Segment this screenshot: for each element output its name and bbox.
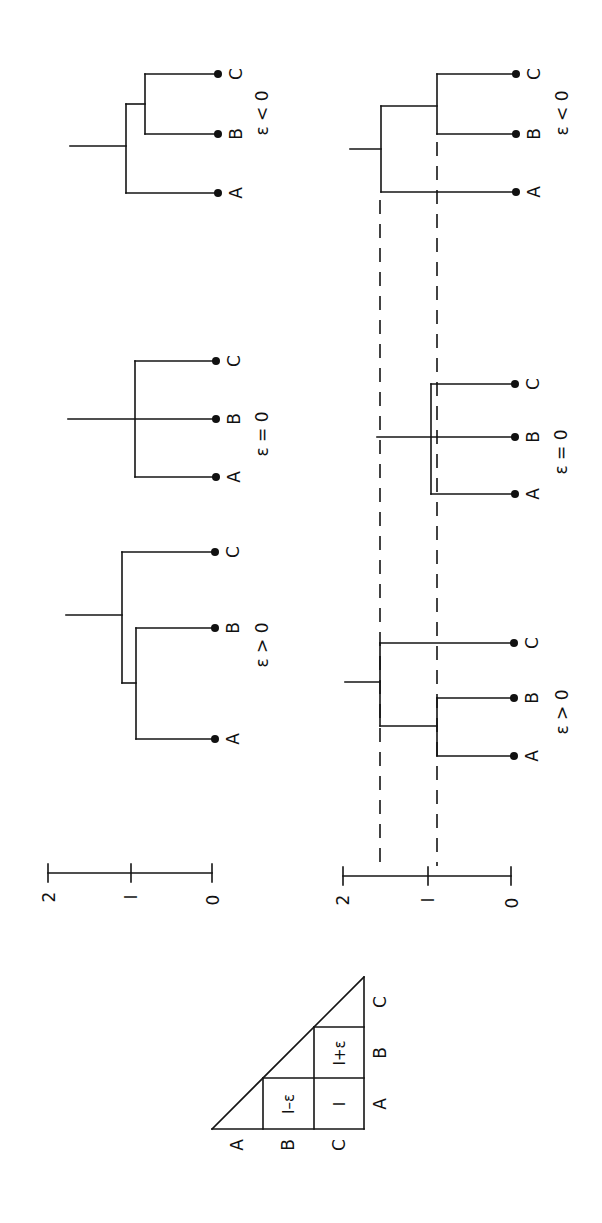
leaf-label-c: C [524, 68, 544, 80]
leaf-label-c: C [523, 378, 543, 390]
cell-bc: I+ε [331, 1040, 349, 1065]
tick-label-2: 2 [39, 892, 59, 903]
leaf-label-c: C [226, 68, 246, 80]
tick-label-2: 2 [333, 895, 353, 906]
leaf-label-b: B [524, 128, 544, 140]
leaf-label-a: A [522, 750, 542, 762]
leaf-label-c: C [224, 355, 244, 367]
row-label-a: A [227, 1139, 247, 1151]
tree-top-eps-negative: A B C ε < 0 [70, 68, 272, 199]
leaf-dot-c [511, 380, 519, 388]
leaf-label-b: B [224, 413, 244, 425]
leaf-dot-a [211, 735, 219, 743]
leaf-dot-b [512, 130, 520, 138]
col-label-a: A [370, 1098, 390, 1110]
condition-label: ε < 0 [252, 90, 272, 135]
leaf-label-a: A [226, 187, 246, 199]
leaf-label-c: C [223, 546, 243, 558]
leaf-label-a: A [523, 488, 543, 500]
leaf-dot-c [510, 639, 518, 647]
tree-bottom-eps-negative: A B C ε < 0 [350, 68, 572, 198]
top-row: A B C ε < 0 A B C ε = 0 [39, 68, 272, 905]
condition-label: ε > 0 [252, 622, 272, 667]
tree-bottom-eps-positive: A B C ε > 0 [345, 637, 572, 762]
tree-top-eps-zero: A B C ε = 0 [68, 355, 272, 483]
row-label-b: B [278, 1139, 298, 1151]
tick-label-1: I [418, 897, 438, 902]
condition-label: ε < 0 [552, 90, 572, 135]
leaf-label-b: B [522, 692, 542, 704]
leaf-label-a: A [224, 471, 244, 483]
leaf-dot-a [511, 490, 519, 498]
col-label-c: C [370, 996, 390, 1008]
leaf-dot-a [214, 189, 222, 197]
leaf-dot-c [211, 548, 219, 556]
row-label-c: C [329, 1139, 349, 1151]
cell-ab: I–ε [280, 1094, 298, 1114]
tick-label-0: 0 [502, 898, 522, 909]
bottom-row: A B C ε < 0 A B C ε = 0 [333, 68, 572, 908]
leaf-dot-b [510, 694, 518, 702]
distance-matrix-triangle: I–ε I I+ε A B C A B C [212, 977, 390, 1151]
dendrogram-figure: A B C ε < 0 A B C ε = 0 [0, 0, 602, 1223]
col-label-b: B [370, 1047, 390, 1059]
leaf-dot-b [211, 624, 219, 632]
leaf-dot-a [510, 752, 518, 760]
condition-label: ε = 0 [551, 429, 571, 474]
condition-label: ε = 0 [252, 411, 272, 456]
condition-label: ε > 0 [552, 689, 572, 734]
leaf-label-b: B [523, 431, 543, 443]
cell-ac: I [331, 1102, 349, 1106]
leaf-label-a: A [223, 733, 243, 745]
scale-bar-bottom: 2 I 0 [333, 867, 522, 908]
leaf-dot-c [512, 70, 520, 78]
leaf-dot-b [214, 130, 222, 138]
leaf-dot-c [214, 70, 222, 78]
leaf-label-a: A [524, 186, 544, 198]
leaf-dot-b [212, 415, 220, 423]
leaf-dot-a [512, 188, 520, 196]
tree-top-eps-positive: A B C ε > 0 [66, 546, 272, 745]
leaf-dot-b [511, 433, 519, 441]
leaf-label-b: B [223, 622, 243, 634]
leaf-dot-c [212, 357, 220, 365]
tick-label-1: I [121, 894, 141, 899]
leaf-label-b: B [226, 128, 246, 140]
tick-label-0: 0 [203, 895, 223, 906]
scale-bar-top: 2 I 0 [39, 864, 223, 905]
tree-bottom-eps-zero: A B C ε = 0 [377, 378, 571, 500]
leaf-label-c: C [522, 637, 542, 649]
leaf-dot-a [212, 473, 220, 481]
